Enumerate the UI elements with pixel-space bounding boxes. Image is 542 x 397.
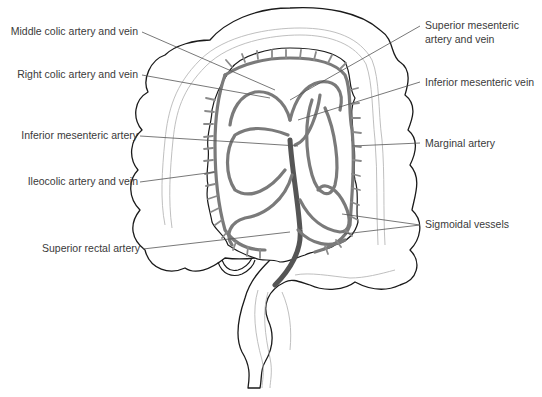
label-superior-mesenteric-line1: Superior mesenteric xyxy=(425,19,519,32)
colon xyxy=(131,8,420,388)
label-inferior-mesenteric-artery: Inferior mesenteric artery xyxy=(21,129,138,142)
label-ileocolic: Ileocolic artery and vein xyxy=(28,175,138,188)
label-right-colic: Right colic artery and vein xyxy=(17,68,138,81)
label-superior-rectal: Superior rectal artery xyxy=(42,242,140,255)
label-superior-mesenteric-line2: artery and vein xyxy=(425,33,494,46)
label-marginal-artery: Marginal artery xyxy=(425,137,495,150)
rectal-fold xyxy=(282,292,291,350)
label-inferior-mesenteric-vein: Inferior mesenteric vein xyxy=(425,76,534,89)
terminal-ileum xyxy=(222,258,252,271)
label-middle-colic: Middle colic artery and vein xyxy=(11,25,138,38)
colon-blood-supply-diagram xyxy=(0,0,542,397)
label-sigmoidal-vessels: Sigmoidal vessels xyxy=(425,218,509,231)
